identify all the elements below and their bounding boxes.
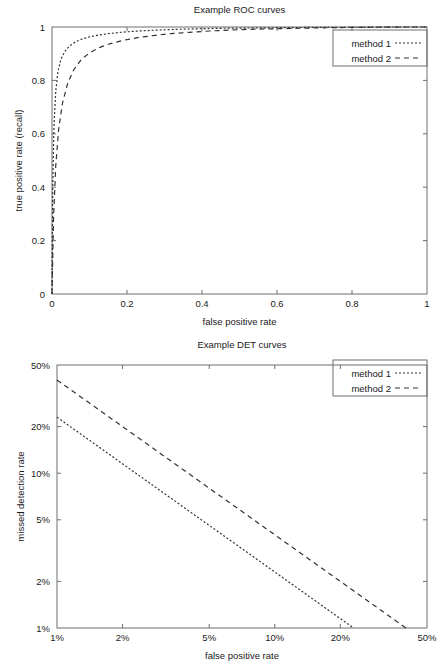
det-chart-figure: Example DET curves1%2%5%10%20%50%1%2%5%1… (0, 330, 442, 671)
legend-label-1: method 1 (351, 368, 391, 379)
x-axis-tick-label: 1% (50, 632, 64, 643)
y-axis-tick-label: 20% (31, 421, 51, 432)
x-axis-tick-label: 0.4 (195, 298, 208, 309)
x-axis-tick-label: 0.6 (270, 298, 283, 309)
y-axis-tick-label: 0.8 (32, 75, 45, 86)
legend-label-1: method 1 (351, 38, 391, 49)
roc-chart-figure: Example ROC curves00.20.40.60.8100.20.40… (0, 0, 442, 330)
x-axis-tick-label: 1 (424, 298, 429, 309)
chart-title: Example DET curves (197, 339, 286, 350)
x-axis-tick-label: 0.2 (120, 298, 133, 309)
x-axis-tick-label: 50% (417, 632, 437, 643)
x-axis-tick-label: 20% (331, 632, 351, 643)
y-axis-tick-label: 1% (36, 623, 50, 634)
legend-label-2: method 2 (351, 383, 391, 394)
y-axis-tick-label: 10% (31, 468, 51, 479)
x-axis-tick-label: 10% (265, 632, 285, 643)
legend-label-2: method 2 (351, 53, 391, 64)
plot-frame (52, 27, 427, 294)
x-axis-title: false positive rate (205, 650, 279, 661)
y-axis-tick-label: 5% (36, 514, 50, 525)
y-axis-tick-label: 0.6 (32, 128, 45, 139)
y-axis-title: missed detection rate (15, 451, 26, 541)
x-axis-tick-label: 5% (202, 632, 216, 643)
y-axis-tick-label: 2% (36, 576, 50, 587)
y-axis-tick-label: 1 (40, 22, 45, 33)
x-axis-tick-label: 2% (116, 632, 130, 643)
plot-frame (57, 365, 427, 628)
y-axis-tick-label: 0.2 (32, 235, 45, 246)
x-axis-tick-label: 0 (49, 298, 54, 309)
roc-chart-canvas: Example ROC curves00.20.40.60.8100.20.40… (0, 0, 442, 330)
y-axis-tick-label: 50% (31, 360, 51, 371)
det-chart-canvas: Example DET curves1%2%5%10%20%50%1%2%5%1… (0, 330, 442, 671)
y-axis-tick-label: 0.4 (32, 182, 45, 193)
series-line-1 (57, 417, 354, 628)
series-line-2 (52, 27, 427, 294)
y-axis-title: true positive rate (recall) (13, 110, 24, 212)
series-line-2 (57, 380, 406, 628)
chart-title: Example ROC curves (194, 4, 286, 15)
series-line-1 (52, 27, 427, 294)
x-axis-title: false positive rate (203, 316, 277, 327)
y-axis-tick-label: 0 (40, 289, 45, 300)
x-axis-tick-label: 0.8 (345, 298, 358, 309)
